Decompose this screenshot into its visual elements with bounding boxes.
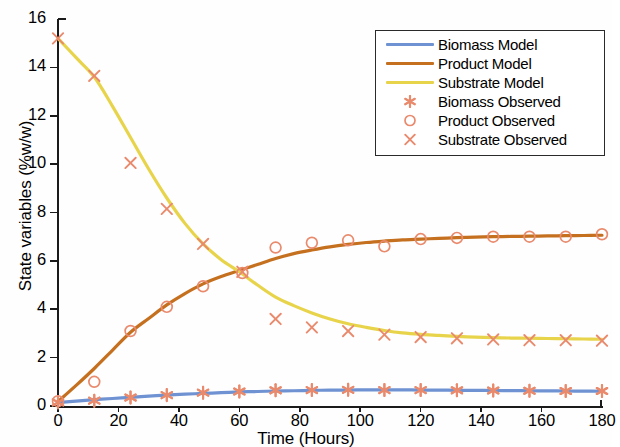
data-point-circle	[161, 301, 172, 312]
legend-item[interactable]: Substrate Model	[382, 73, 598, 92]
data-point-circle	[560, 231, 571, 242]
legend-item[interactable]: Substrate Observed	[382, 130, 598, 149]
legend-line-swatch	[386, 62, 434, 65]
data-point-asterisk	[234, 385, 244, 397]
y-tick-label: 0	[0, 395, 46, 414]
data-point-x	[524, 335, 534, 345]
y-tick-mark	[50, 163, 57, 165]
data-point-circle	[452, 232, 463, 243]
x-tick-mark	[600, 400, 602, 407]
y-axis-title: State variables (%w/w)	[16, 26, 36, 386]
data-point-circle	[237, 268, 248, 279]
data-point-asterisk	[89, 395, 99, 407]
legend-label: Substrate Model	[438, 74, 543, 91]
x-tick-label: 140	[451, 411, 511, 430]
data-point-circle	[125, 326, 136, 337]
data-point-asterisk	[198, 387, 208, 399]
data-point-x	[237, 267, 247, 277]
legend-marker-svg	[382, 130, 438, 149]
series-line-product-model	[58, 235, 602, 401]
data-point-asterisk	[524, 385, 534, 397]
data-point-x	[415, 332, 425, 342]
data-point-x	[343, 326, 353, 336]
y-axis-line	[57, 19, 59, 408]
data-point-asterisk	[270, 384, 280, 396]
data-point-asterisk	[307, 384, 317, 396]
x-axis-title: Time (Hours)	[0, 429, 612, 447]
data-point-x	[270, 314, 280, 324]
x-tick-label: 120	[391, 411, 451, 430]
data-point-circle	[597, 229, 608, 240]
legend-key-x-icon	[382, 130, 438, 149]
data-point-x	[379, 329, 389, 339]
legend-item[interactable]: Product Observed	[382, 111, 598, 130]
x-tick-label: 180	[572, 411, 620, 430]
data-point-circle	[306, 237, 317, 248]
y-tick-mark	[50, 67, 57, 69]
data-point-x	[125, 158, 135, 168]
legend-key-circle-icon	[382, 111, 438, 130]
legend-label: Product Observed	[438, 112, 555, 129]
data-point-circle	[524, 231, 535, 242]
series-markers-product-observed	[53, 229, 608, 407]
legend-key-line	[382, 54, 438, 73]
legend-label: Biomass Model	[438, 36, 537, 53]
legend-marker-svg	[382, 92, 438, 111]
data-point-asterisk	[597, 385, 607, 397]
legend-item[interactable]: Biomass Model	[382, 35, 598, 54]
data-point-x	[198, 239, 208, 249]
legend-line-swatch	[386, 81, 434, 84]
x-tick-label: 20	[88, 411, 148, 430]
y-tick-mark	[50, 308, 57, 310]
x-tick-label: 60	[209, 411, 269, 430]
legend-marker-svg	[382, 111, 438, 130]
data-point-x	[488, 334, 498, 344]
data-point-x	[452, 333, 462, 343]
data-point-circle	[198, 281, 209, 292]
data-point-x	[162, 204, 172, 214]
x-tick-label: 100	[330, 411, 390, 430]
chart-legend: Biomass ModelProduct ModelSubstrate Mode…	[375, 30, 605, 156]
legend-item[interactable]: Biomass Observed	[382, 92, 598, 111]
data-point-asterisk	[343, 384, 353, 396]
data-point-asterisk	[125, 392, 135, 404]
legend-key-line	[382, 35, 438, 54]
series-line-biomass-model	[58, 390, 602, 403]
legend-item[interactable]: Product Model	[382, 54, 598, 73]
data-point-asterisk	[561, 385, 571, 397]
legend-line-swatch	[386, 43, 434, 46]
legend-label: Product Model	[438, 55, 531, 72]
data-point-circle	[379, 241, 390, 252]
data-point-asterisk	[488, 385, 498, 397]
x-tick-label: 40	[149, 411, 209, 430]
data-point-asterisk	[415, 384, 425, 396]
y-tick-mark	[50, 260, 57, 262]
data-point-circle	[405, 116, 415, 126]
data-point-circle	[415, 234, 426, 245]
data-point-asterisk	[379, 384, 389, 396]
data-point-circle	[488, 231, 499, 242]
legend-key-line	[382, 73, 438, 92]
y-tick-mark	[50, 357, 57, 359]
data-point-asterisk	[405, 96, 414, 107]
y-tick-mark	[50, 405, 57, 407]
series-markers-biomass-observed	[53, 384, 607, 409]
data-point-circle	[270, 242, 281, 253]
data-point-circle	[343, 235, 354, 246]
data-point-x	[89, 71, 99, 81]
y-tick-mark	[50, 212, 57, 214]
y-tick-mark	[50, 115, 57, 117]
x-axis-line	[58, 406, 603, 408]
legend-label: Substrate Observed	[438, 131, 567, 148]
x-tick-label: 80	[270, 411, 330, 430]
x-tick-label: 160	[512, 411, 572, 430]
data-point-asterisk	[162, 389, 172, 401]
data-point-x	[405, 135, 415, 145]
data-point-x	[561, 335, 571, 345]
data-point-x	[307, 322, 317, 332]
data-point-x	[597, 335, 607, 345]
data-point-circle	[89, 376, 100, 387]
legend-key-asterisk-icon	[382, 92, 438, 111]
y-tick-mark	[58, 18, 66, 20]
